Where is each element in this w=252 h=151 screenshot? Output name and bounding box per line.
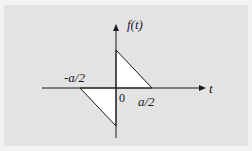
y-axis-arrow-icon	[113, 24, 119, 31]
x-axis-arrow-icon	[199, 85, 206, 91]
lower-triangle	[80, 88, 116, 126]
function-plot	[0, 0, 252, 151]
origin-label: 0	[119, 92, 125, 104]
upper-triangle	[116, 50, 152, 88]
x-axis-label: t	[209, 82, 213, 95]
y-axis-label: f(t)	[127, 18, 143, 31]
negative-tick-label: -a/2	[64, 71, 85, 84]
positive-tick-label: a/2	[138, 95, 155, 108]
